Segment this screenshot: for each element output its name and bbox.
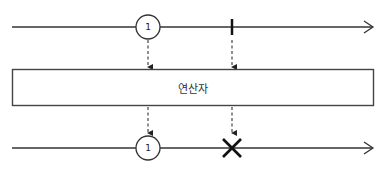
output-value-marble: 1 (136, 136, 160, 160)
output-value-label: 1 (145, 143, 151, 153)
input-timeline: 1 (12, 15, 373, 39)
input-value-label: 1 (145, 22, 151, 32)
marble-diagram: 1 1 (0, 0, 386, 171)
input-value-marble: 1 (136, 15, 160, 39)
operator-box (13, 70, 374, 106)
output-timeline: 1 (12, 136, 373, 160)
